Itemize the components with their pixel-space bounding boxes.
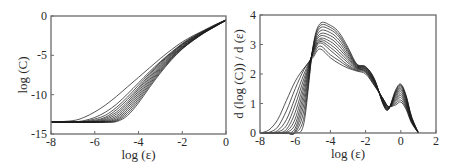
data-curve bbox=[260, 40, 418, 133]
figure: -8-6-4-200-5-10-15 log (ε) log (C) -8-6-… bbox=[0, 0, 459, 166]
x-tick-label: -6 bbox=[290, 134, 300, 148]
x-tick-label: 2 bbox=[433, 134, 439, 148]
y-axis-label: d (log (C)) / d (ε) bbox=[231, 29, 246, 119]
x-tick-label: -6 bbox=[90, 135, 100, 149]
axis-ticks: -8-6-4-200-5-10-15 bbox=[31, 9, 229, 149]
curve-family bbox=[260, 22, 418, 134]
y-tick-label: 0 bbox=[250, 126, 256, 140]
data-curve bbox=[260, 41, 418, 133]
y-tick-label: 2 bbox=[250, 67, 256, 81]
x-tick-label: 0 bbox=[398, 134, 404, 148]
x-tick-label: 0 bbox=[223, 135, 229, 149]
local-slope-plot: -8-6-4-20201234 log (ε) d (log (C)) / d … bbox=[231, 8, 439, 161]
y-tick-label: 1 bbox=[250, 97, 256, 111]
curve-family bbox=[51, 20, 226, 122]
x-tick-label: -8 bbox=[255, 134, 265, 148]
data-curve bbox=[260, 24, 418, 134]
y-tick-label: -10 bbox=[31, 88, 47, 102]
y-tick-label: 0 bbox=[41, 9, 47, 23]
y-tick-label: 4 bbox=[250, 8, 256, 22]
x-tick-label: -8 bbox=[46, 135, 56, 149]
data-curve bbox=[260, 33, 418, 133]
y-tick-label: -15 bbox=[31, 127, 47, 141]
data-curve bbox=[260, 36, 418, 134]
y-tick-label: -5 bbox=[37, 48, 47, 62]
data-curve bbox=[51, 20, 226, 122]
data-curve bbox=[260, 43, 418, 133]
data-curve bbox=[260, 49, 418, 133]
correlation-integral-plot: -8-6-4-200-5-10-15 log (ε) log (C) bbox=[15, 9, 229, 162]
y-tick-label: 3 bbox=[250, 38, 256, 52]
x-axis-label: log (ε) bbox=[122, 147, 156, 162]
x-tick-label: -2 bbox=[177, 135, 187, 149]
data-curve bbox=[260, 46, 418, 133]
x-axis-label: log (ε) bbox=[331, 146, 365, 161]
axis-ticks: -8-6-4-20201234 bbox=[250, 8, 439, 148]
y-axis-label: log (C) bbox=[15, 56, 30, 93]
